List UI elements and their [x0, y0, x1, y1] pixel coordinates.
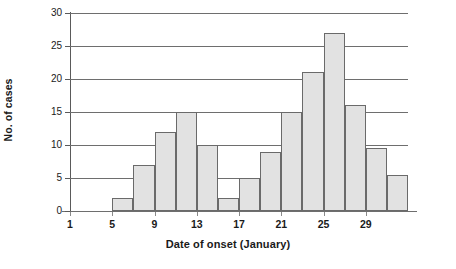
x-tick-mark-29	[366, 212, 367, 216]
bar-25-26	[324, 33, 345, 211]
y-tick-label-25: 25	[36, 40, 62, 51]
bar-21-22	[281, 112, 302, 211]
y-tick-label-0: 0	[36, 205, 62, 216]
x-tick-mark-13	[197, 212, 198, 216]
bar-19-20	[260, 152, 281, 211]
gridline-y-30	[70, 13, 408, 14]
x-tick-mark-9	[155, 212, 156, 216]
x-tick-label-21: 21	[270, 218, 292, 230]
bar-9-10	[155, 132, 176, 211]
bar-29-30	[366, 148, 387, 211]
y-axis-title: No. of cases	[2, 50, 14, 170]
bar-17-18	[239, 178, 260, 211]
y-tick-label-10: 10	[36, 139, 62, 150]
x-tick-label-29: 29	[355, 218, 377, 230]
y-tick-label-15: 15	[36, 106, 62, 117]
y-tick-label-30: 30	[36, 7, 62, 18]
x-axis-title: Date of onset (January)	[0, 238, 456, 250]
x-tick-label-1: 1	[59, 218, 81, 230]
x-tick-mark-21	[281, 212, 282, 216]
bar-15-16	[218, 198, 239, 211]
y-tick-label-20: 20	[36, 73, 62, 84]
x-tick-label-13: 13	[186, 218, 208, 230]
x-tick-label-9: 9	[144, 218, 166, 230]
histogram-figure: No. of cases 051015202530 1591317212529 …	[0, 0, 456, 269]
y-tick-label-5: 5	[36, 172, 62, 183]
bar-11-12	[176, 112, 197, 211]
x-tick-label-5: 5	[101, 218, 123, 230]
x-tick-mark-1	[70, 212, 71, 216]
plot-area	[70, 13, 408, 211]
bar-13-14	[197, 145, 218, 211]
bar-31-32	[387, 175, 408, 211]
gridline-y-20	[70, 79, 408, 80]
x-tick-mark-5	[112, 212, 113, 216]
bar-5-6	[112, 198, 133, 211]
x-tick-mark-25	[324, 212, 325, 216]
bar-23-24	[302, 72, 323, 211]
bar-27-28	[345, 105, 366, 211]
bar-7-8	[133, 165, 154, 211]
gridline-y-25	[70, 46, 408, 47]
x-tick-mark-17	[239, 212, 240, 216]
x-tick-label-25: 25	[313, 218, 335, 230]
x-tick-label-17: 17	[228, 218, 250, 230]
